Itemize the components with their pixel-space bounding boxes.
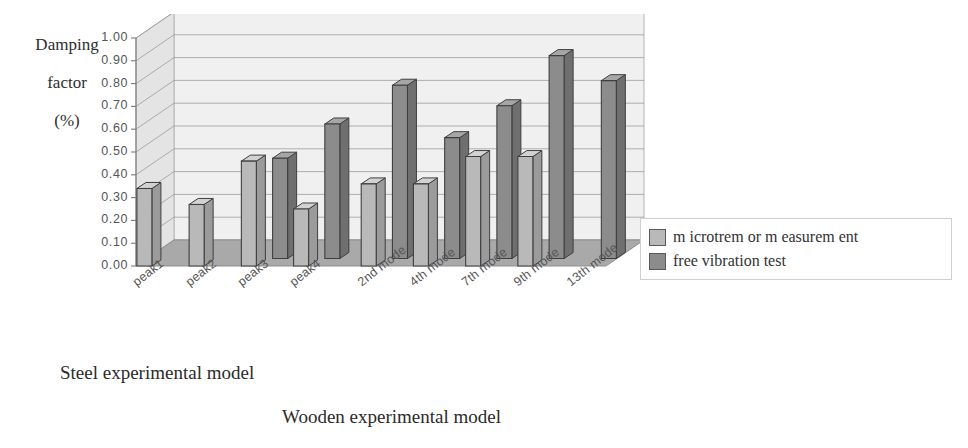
bar [466, 151, 490, 266]
bar [518, 151, 542, 266]
legend-swatch-free-vibration [649, 253, 666, 270]
y-tick-label: 0.70 [88, 98, 128, 112]
y-tick-label: 0.00 [88, 258, 128, 272]
y-tick-label: 0.90 [88, 53, 128, 67]
bar [445, 132, 469, 259]
bar [601, 75, 625, 259]
y-tick-label: 0.60 [88, 121, 128, 135]
y-tick-label: 0.30 [88, 190, 128, 204]
bar [361, 178, 385, 266]
y-tick-label: 1.00 [88, 30, 128, 44]
y-tick-label: 0.50 [88, 144, 128, 158]
bar [549, 50, 573, 259]
chart-plot-area: 1.000.900.800.700.600.500.400.300.200.10… [108, 14, 648, 314]
chart-legend: m icrotrem or m easurem ent free vibrati… [640, 218, 952, 280]
y-tick-label: 0.20 [88, 212, 128, 226]
legend-item-free-vibration: free vibration test [649, 249, 943, 273]
y-tick-label: 0.40 [88, 167, 128, 181]
legend-label-microtremor: m icrotrem or m easurem ent [673, 228, 858, 246]
legend-swatch-microtremor [649, 229, 666, 246]
bar [137, 182, 161, 266]
bar [497, 100, 521, 259]
bar [392, 79, 416, 258]
y-tick-label: 0.10 [88, 235, 128, 249]
bar [413, 178, 437, 266]
group-caption-steel: Steel experimental model [60, 362, 254, 384]
legend-label-free-vibration: free vibration test [673, 252, 786, 270]
bar [241, 155, 265, 266]
y-tick-label: 0.80 [88, 76, 128, 90]
legend-item-microtremor: m icrotrem or m easurem ent [649, 225, 943, 249]
bar [273, 152, 297, 258]
group-caption-wooden: Wooden experimental model [282, 406, 501, 428]
bar [325, 118, 349, 259]
